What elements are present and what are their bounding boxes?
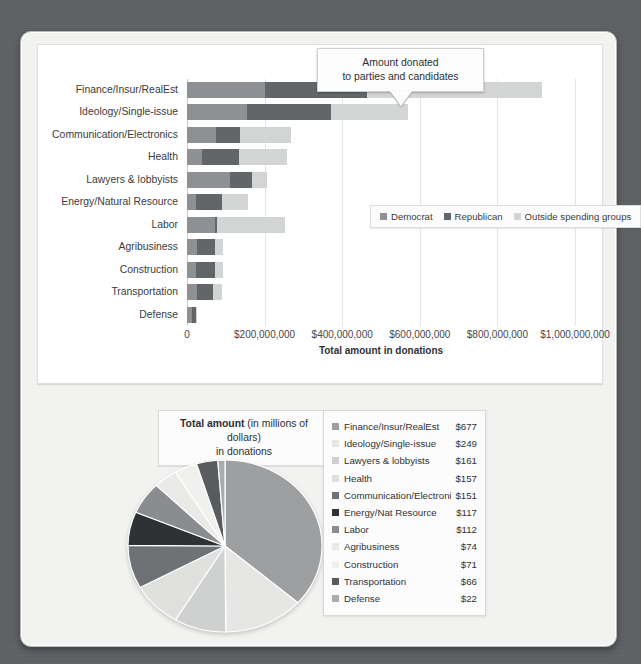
bar-segment-out [222, 194, 248, 210]
pie-legend-value: $249 [451, 438, 477, 449]
legend-item: Outside spending groups [514, 211, 632, 222]
pie-legend-value: $151 [451, 490, 477, 501]
x-axis-tick-label: $200,000,000 [234, 329, 295, 340]
bar-segment-rep [247, 104, 330, 120]
bar-row-label: Communication/Electronics [38, 126, 186, 144]
pie-legend-value: $161 [451, 455, 477, 466]
bar-row-label: Agribusiness [38, 238, 186, 256]
legend-label: Democrat [391, 211, 433, 222]
pie-legend-label: Agribusiness [344, 541, 457, 552]
pie-legend-value: $157 [451, 473, 477, 484]
legend-item: Democrat [380, 211, 433, 222]
bar-segment-out [252, 172, 268, 188]
x-axis-tick-label: $1,000,000,000 [540, 329, 610, 340]
legend-label: Outside spending groups [525, 211, 632, 222]
bar-segment-rep [216, 127, 240, 143]
legend-label: Republican [455, 211, 503, 222]
bar-segment-rep [230, 172, 252, 188]
stacked-bar [187, 104, 408, 120]
stacked-bar [187, 172, 267, 188]
legend-swatch-icon [380, 213, 387, 220]
pie-legend-row: Energy/Nat Resource$117 [332, 504, 477, 521]
bar-segment-rep [196, 194, 222, 210]
bar-segment-rep [197, 284, 213, 300]
stacked-bar [187, 217, 285, 233]
bar-segment-out [239, 149, 288, 165]
pie-legend-swatch-icon [332, 543, 339, 550]
infographic-panel: Finance/Insur/RealEstIdeology/Single-iss… [20, 31, 617, 647]
pie-legend-label: Lawyers & lobbyists [344, 455, 451, 466]
pie-chart [125, 457, 325, 635]
stacked-bar [187, 307, 197, 323]
pie-legend-label: Transportation [344, 576, 457, 587]
pie-legend-value: $117 [452, 507, 477, 518]
bar-chart-legend: DemocratRepublicanOutside spending group… [370, 205, 641, 228]
pie-legend-value: $66 [457, 576, 477, 587]
bar-row-label: Labor [38, 216, 186, 234]
bar-row-label: Ideology/Single-issue [38, 103, 186, 121]
bar-row-label: Health [38, 148, 186, 166]
bar-segment-dem [187, 284, 197, 300]
pie-legend-row: Construction$71 [332, 556, 477, 573]
bar-segment-dem [187, 194, 196, 210]
bar-row: Health [38, 148, 598, 166]
bar-segment-out [196, 307, 198, 323]
pie-legend-label: Energy/Nat Resource [344, 507, 452, 518]
bar-segment-out [217, 217, 285, 233]
stacked-bar [187, 239, 223, 255]
bar-row-label: Defense [38, 306, 186, 324]
pie-legend-label: Labor [344, 524, 452, 535]
bar-segment-dem [187, 217, 215, 233]
bar-segment-dem [187, 82, 265, 98]
bar-segment-dem [187, 172, 230, 188]
bar-row: Defense [38, 306, 598, 324]
pie-legend-label: Communication/Electronics [344, 490, 451, 501]
bar-row: Lawyers & lobbyists [38, 171, 598, 189]
pie-legend-value: $71 [457, 559, 477, 570]
callout-line-1: Amount donated [324, 56, 477, 70]
bar-row-label: Energy/Natural Resource [38, 193, 186, 211]
pie-legend-value: $677 [451, 421, 477, 432]
bar-row-label: Finance/Insur/RealEst [38, 81, 186, 99]
pie-legend-swatch-icon [332, 440, 339, 447]
pie-legend-row: Lawyers & lobbyists$161 [332, 452, 477, 469]
bar-row-label: Lawyers & lobbyists [38, 171, 186, 189]
stacked-bar [187, 284, 222, 300]
legend-swatch-icon [514, 213, 521, 220]
pie-legend-row: Agribusiness$74 [332, 538, 477, 555]
callout-line-2: to parties and candidates [324, 70, 477, 84]
stacked-bar [187, 194, 248, 210]
stacked-bar [187, 127, 291, 143]
bar-segment-dem [187, 104, 247, 120]
pie-legend-swatch-icon [332, 423, 339, 430]
pie-legend-value: $112 [452, 524, 477, 535]
bar-row-label: Transportation [38, 283, 186, 301]
callout-tail [390, 91, 412, 106]
bar-segment-dem [187, 127, 216, 143]
bar-segment-dem [187, 239, 197, 255]
pie-legend-row: Health$157 [332, 470, 477, 487]
pie-title-bold: Total amount [180, 418, 244, 429]
bar-row: Communication/Electronics [38, 126, 598, 144]
pie-legend-label: Finance/Insur/RealEst [344, 421, 451, 432]
pie-legend-swatch-icon [332, 509, 339, 516]
bar-chart-card: Finance/Insur/RealEstIdeology/Single-iss… [37, 44, 603, 384]
bar-row-label: Construction [38, 261, 186, 279]
bar-segment-rep [197, 239, 215, 255]
bar-row: Ideology/Single-issue [38, 103, 598, 121]
pie-legend-label: Health [344, 473, 451, 484]
pie-chart-svg [125, 457, 325, 635]
pie-legend-row: Defense$22 [332, 590, 477, 607]
stacked-bar [187, 262, 223, 278]
pie-legend-swatch-icon [332, 457, 339, 464]
pie-legend-value: $22 [457, 593, 477, 604]
bar-row: Transportation [38, 283, 598, 301]
bar-segment-out [240, 127, 290, 143]
pie-legend-row: Finance/Insur/RealEst$677 [332, 418, 477, 435]
bar-segment-rep [196, 262, 215, 278]
bar-segment-out [213, 284, 222, 300]
pie-chart-legend: Finance/Insur/RealEst$677Ideology/Single… [323, 410, 486, 616]
bar-row: Construction [38, 261, 598, 279]
x-axis-tick-label: $800,000,000 [467, 329, 528, 340]
bar-segment-rep [202, 149, 239, 165]
